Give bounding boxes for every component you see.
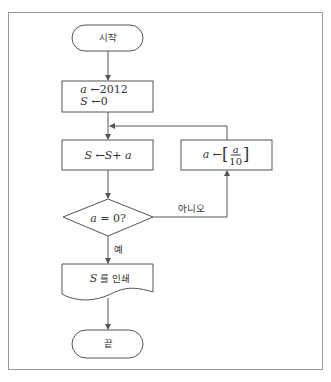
floor-bracket-right: ] — [243, 145, 249, 164]
update-label: a ←[a10] — [203, 144, 250, 167]
init-label: a ←2012 S ←0 — [80, 84, 127, 108]
fraction: a10 — [229, 144, 242, 167]
accumulate-operand-s: S — [105, 149, 113, 162]
floor-bracket-left: [ — [222, 145, 228, 164]
update-target: a — [203, 148, 210, 161]
accumulate-target: S — [84, 149, 92, 162]
accumulate-label: S ←S+ a — [84, 150, 131, 161]
fraction-denominator: 10 — [229, 156, 242, 167]
end-label: 끝 — [104, 339, 113, 349]
output-text: 를 인쇄 — [97, 273, 130, 284]
fraction-numerator: a — [231, 144, 241, 156]
equals-operator: = — [97, 212, 113, 225]
assign-arrow: ← — [213, 148, 222, 161]
decision-value: 0? — [113, 212, 126, 225]
loop-back-connector — [110, 126, 227, 140]
flowchart-canvas — [0, 0, 331, 382]
decision-label: a = 0? — [90, 213, 126, 224]
accumulate-operand-a: a — [125, 149, 132, 162]
no-branch-label: 아니오 — [178, 204, 205, 214]
plus-operator: + — [112, 149, 121, 162]
output-var: S — [90, 272, 98, 285]
assign-arrow: ← — [96, 149, 105, 162]
init-value-s: 0 — [101, 95, 108, 108]
init-line-s: S ←0 — [80, 96, 127, 108]
init-var-s: S — [80, 95, 88, 108]
start-label: 시작 — [99, 33, 117, 43]
yes-branch-label: 예 — [114, 245, 123, 255]
output-label: S 를 인쇄 — [90, 273, 131, 284]
assign-arrow: ← — [91, 95, 100, 108]
